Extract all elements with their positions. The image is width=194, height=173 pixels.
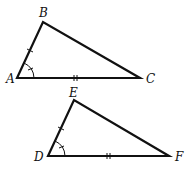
triangle-abc <box>17 22 140 81</box>
vertex-label-a: A <box>6 73 15 85</box>
triangle-def <box>48 100 169 159</box>
angle-a-arc <box>24 63 34 78</box>
vertex-label-c: C <box>146 73 155 85</box>
vertex-label-e: E <box>69 87 78 99</box>
angle-d-arc <box>55 141 65 156</box>
congruent-triangles-diagram: A B C D E F <box>0 0 194 173</box>
vertex-label-f: F <box>175 151 183 163</box>
triangles-figure <box>0 0 194 173</box>
vertex-label-d: D <box>34 151 44 163</box>
vertex-label-b: B <box>39 7 48 19</box>
